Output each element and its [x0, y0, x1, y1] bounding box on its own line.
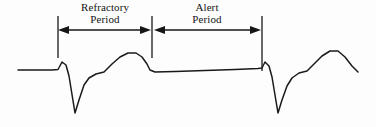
alert-arrow-head-right — [250, 26, 261, 34]
alert-label-line1: Alert — [160, 2, 254, 14]
refractory-label-line2: Period — [58, 14, 152, 26]
alert-label-line2: Period — [160, 14, 254, 26]
ecg-waveform-trace — [18, 51, 358, 113]
refractory-arrow-head-right — [140, 26, 151, 34]
alert-period-arrow — [154, 26, 261, 34]
ecg-figure: Refractory Period Alert Period — [0, 0, 376, 127]
alert-arrow-head-left — [154, 26, 165, 34]
alert-period-label: Alert Period — [160, 2, 254, 25]
refractory-period-label: Refractory Period — [58, 2, 152, 25]
refractory-period-arrow — [58, 26, 151, 34]
refractory-label-line1: Refractory — [58, 2, 152, 14]
refractory-arrow-head-left — [58, 26, 69, 34]
